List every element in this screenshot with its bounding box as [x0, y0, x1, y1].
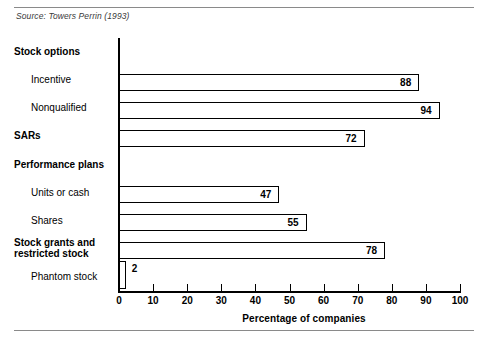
x-axis-tick-label-90: 90 — [420, 295, 431, 306]
bar — [119, 186, 279, 203]
x-axis-tick-label-100: 100 — [452, 295, 469, 306]
x-axis-tick-70 — [358, 284, 359, 292]
category-label: Performance plans — [14, 159, 104, 170]
x-axis-tick-label-50: 50 — [284, 295, 295, 306]
category-label: Stock options — [14, 46, 80, 57]
x-axis-tick-label-30: 30 — [216, 295, 227, 306]
x-axis-title-text: Percentage of companies — [124, 313, 365, 324]
bar-value-label: 72 — [346, 133, 357, 144]
bar-value-label: 88 — [400, 77, 411, 88]
bar — [119, 214, 307, 231]
x-axis-tick-100 — [460, 284, 461, 292]
bar-value-label: 55 — [288, 217, 299, 228]
x-axis-tick-label-40: 40 — [250, 295, 261, 306]
plot-area: 0102030405060708090100Stock optionsIncen… — [0, 0, 490, 344]
category-label: Units or cash — [31, 187, 89, 198]
x-axis-tick-10 — [153, 284, 154, 292]
bar — [119, 74, 419, 91]
category-label: Incentive — [31, 74, 71, 85]
x-axis-tick-60 — [324, 284, 325, 292]
category-label: SARs — [14, 130, 41, 141]
bar-value-label: 78 — [366, 245, 377, 256]
category-label: Nonqualified — [31, 102, 87, 113]
bottom-divider-rule — [14, 330, 474, 331]
x-axis-tick-label-20: 20 — [182, 295, 193, 306]
x-axis-tick-40 — [255, 284, 256, 292]
category-label: Stock grants andrestricted stock — [14, 237, 95, 260]
x-axis-tick-label-0: 0 — [116, 295, 122, 306]
x-axis-tick-20 — [187, 284, 188, 292]
bar-value-label: 2 — [132, 263, 138, 274]
chart-figure: Source: Towers Perrin (1993) 01020304050… — [0, 0, 490, 344]
bar — [119, 261, 126, 289]
x-axis-tick-30 — [221, 284, 222, 292]
x-axis-tick-label-60: 60 — [318, 295, 329, 306]
bar — [119, 130, 365, 147]
category-label: Phantom stock — [31, 271, 97, 282]
x-axis-tick-90 — [426, 284, 427, 292]
x-axis-tick-label-70: 70 — [352, 295, 363, 306]
category-label: Shares — [31, 215, 63, 226]
x-axis-tick-80 — [392, 284, 393, 292]
x-axis-title: Percentage of companies — [0, 313, 490, 324]
x-axis-tick-label-10: 10 — [148, 295, 159, 306]
bar-value-label: 94 — [421, 105, 432, 116]
bar — [119, 102, 440, 119]
x-axis-tick-label-80: 80 — [386, 295, 397, 306]
bar — [119, 242, 385, 259]
x-axis-tick-50 — [290, 284, 291, 292]
bar-value-label: 47 — [260, 189, 271, 200]
